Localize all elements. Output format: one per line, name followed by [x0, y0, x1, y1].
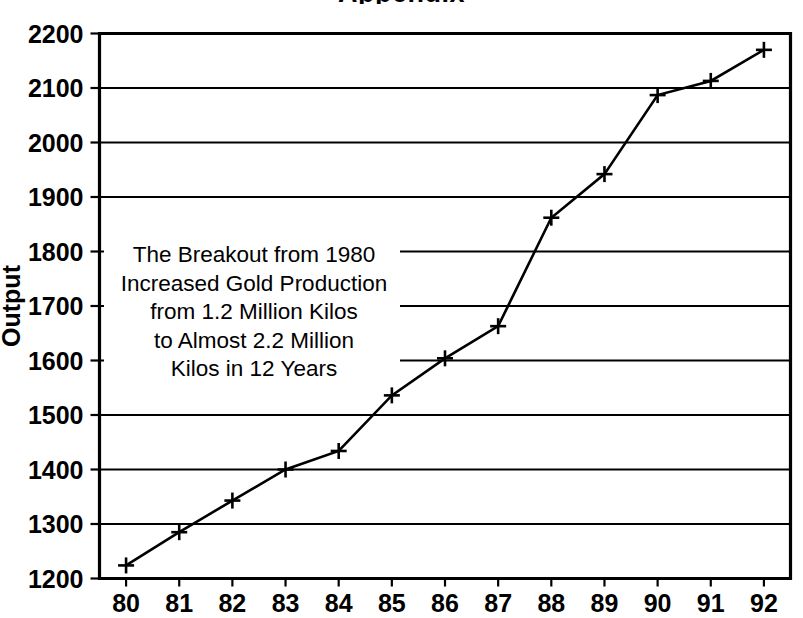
annotation-line-1: The Breakout from 1980	[133, 242, 376, 267]
x-tick-label-92: 92	[750, 589, 778, 617]
x-tick-label-89: 89	[591, 589, 619, 617]
y-axis-label: Output	[0, 264, 25, 347]
line-chart: 1200130014001500160017001800190020002100…	[0, 0, 803, 618]
y-tick-label-1800: 1800	[28, 238, 84, 266]
y-tick-label-2000: 2000	[28, 129, 84, 157]
y-axis-label-text: Output	[0, 264, 25, 347]
x-tick-label-91: 91	[697, 589, 725, 617]
y-tick-label-1900: 1900	[28, 183, 84, 211]
x-tick-label-85: 85	[378, 589, 406, 617]
y-tick-label-1300: 1300	[28, 510, 84, 538]
y-tick-label-2200: 2200	[28, 20, 84, 48]
page-title: Appendix	[0, 0, 803, 4]
annotation-line-5: Kilos in 12 Years	[171, 356, 337, 381]
x-tick-label-86: 86	[431, 589, 459, 617]
chart-container: Appendix 1200130014001500160017001800190…	[0, 0, 803, 618]
annotation-line-2: Increased Gold Production	[121, 271, 387, 296]
x-tick-label-83: 83	[272, 589, 300, 617]
x-tick-label-80: 80	[112, 589, 140, 617]
y-tick-label-1500: 1500	[28, 401, 84, 429]
x-tick-label-88: 88	[537, 589, 565, 617]
x-tick-label-84: 84	[325, 589, 353, 617]
annotation-line-4: to Almost 2.2 Million	[154, 328, 354, 353]
y-tick-label-1700: 1700	[28, 292, 84, 320]
x-tick-label-82: 82	[218, 589, 246, 617]
annotation-line-3: from 1.2 Million Kilos	[150, 299, 358, 324]
y-tick-label-1600: 1600	[28, 347, 84, 375]
y-tick-label-1400: 1400	[28, 456, 84, 484]
x-tick-label-87: 87	[484, 589, 512, 617]
x-tick-label-81: 81	[165, 589, 193, 617]
x-tick-label-90: 90	[644, 589, 672, 617]
y-tick-label-2100: 2100	[28, 74, 84, 102]
y-tick-label-1200: 1200	[28, 565, 84, 593]
